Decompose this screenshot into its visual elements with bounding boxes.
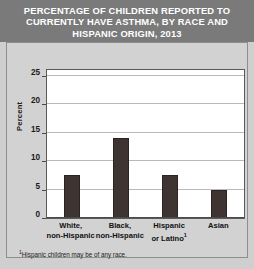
y-tick-label: 0 [35, 210, 40, 219]
y-tick-label: 5 [35, 181, 40, 190]
y-axis-ticks: 0510152025 [7, 69, 46, 219]
plot-area [46, 69, 245, 219]
x-tick-label: Hispanicor Latino1 [145, 221, 194, 243]
bar-slot [146, 70, 195, 218]
chart-panel: Percent 0510152025 White,non-HispanicBla… [6, 42, 248, 258]
bar-slot [96, 70, 145, 218]
x-tick-label: White,non-Hispanic [46, 221, 95, 240]
bar [162, 175, 178, 218]
y-tick-label: 15 [31, 124, 40, 133]
x-tick-label: Black,non-Hispanic [95, 221, 144, 240]
page-title: PERCENTAGE OF CHILDREN REPORTED TO CURRE… [6, 5, 248, 39]
y-tick-label: 20 [31, 96, 40, 105]
y-tick-label: 25 [31, 67, 40, 76]
bar [64, 175, 80, 218]
bar-slot [195, 70, 244, 218]
chart-figure: PERCENTAGE OF CHILDREN REPORTED TO CURRE… [0, 0, 254, 269]
bar-slot [47, 70, 96, 218]
x-tick-label: Asian [194, 221, 243, 231]
bar [211, 190, 227, 218]
chart-title-band: PERCENTAGE OF CHILDREN REPORTED TO CURRE… [0, 0, 254, 42]
bar [113, 138, 129, 218]
chart-footnote: 1Hispanic children may be of any race. [19, 249, 127, 258]
x-axis-labels: White,non-HispanicBlack,non-HispanicHisp… [46, 221, 245, 247]
footnote-text: Hispanic children may be of any race. [22, 251, 127, 258]
bar-series [47, 70, 244, 218]
y-tick-label: 10 [31, 153, 40, 162]
x-axis-line [47, 217, 244, 218]
